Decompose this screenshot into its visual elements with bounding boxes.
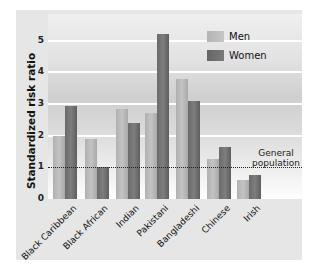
bar-women-chinese	[219, 147, 231, 199]
bar-women-irish	[249, 175, 261, 199]
bar-men-pakistani	[145, 113, 157, 199]
bar-women-black-caribbean	[65, 106, 77, 200]
legend-item-women: Women	[207, 46, 267, 65]
gridline	[48, 103, 302, 105]
legend: Men Women	[207, 27, 267, 65]
bar-men-black-african	[85, 139, 97, 199]
bar-women-indian	[128, 123, 140, 199]
bar-men-bangladeshi	[176, 79, 188, 199]
bar-women-pakistani	[157, 34, 169, 199]
bar-men-indian	[116, 109, 128, 199]
y-axis-label: Standardized risk ratio	[25, 51, 39, 191]
legend-item-men: Men	[207, 27, 267, 46]
bar-women-black-african	[97, 167, 109, 199]
men-swatch	[207, 31, 224, 42]
y-tick-label: 5	[36, 35, 46, 45]
bar-women-bangladeshi	[188, 101, 200, 199]
gridline	[48, 135, 302, 137]
gridline	[48, 71, 302, 73]
bar-men-chinese	[207, 159, 219, 199]
bar-men-irish	[237, 180, 249, 199]
women-swatch	[207, 50, 224, 61]
y-tick-label: 0	[36, 193, 46, 203]
reference-line-label: General population	[252, 148, 300, 168]
